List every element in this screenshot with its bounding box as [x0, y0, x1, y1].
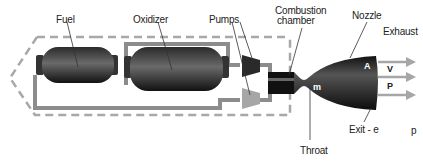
label-area: A: [364, 61, 370, 72]
label-ambient-pressure: p: [411, 125, 416, 136]
fuel-pump: [242, 88, 260, 109]
label-pressure: P: [387, 81, 393, 92]
label-exhaust: Exhaust: [383, 26, 418, 37]
label-mass-flow: m: [313, 82, 321, 93]
label-combustion-chamber-line2: chamber: [277, 15, 315, 26]
label-oxidizer: Oxidizer: [133, 14, 168, 25]
label-velocity: V: [387, 64, 393, 75]
combustion-chamber: [268, 72, 294, 94]
label-fuel: Fuel: [56, 14, 75, 25]
label-exit: Exit - e: [349, 124, 379, 135]
label-nozzle: Nozzle: [352, 10, 381, 21]
fuel-tank: [36, 47, 118, 83]
label-throat: Throat: [300, 145, 328, 156]
exhaust-arrows: [378, 57, 416, 100]
oxidizer-tank: [124, 47, 229, 91]
label-pumps: Pumps: [209, 14, 239, 25]
